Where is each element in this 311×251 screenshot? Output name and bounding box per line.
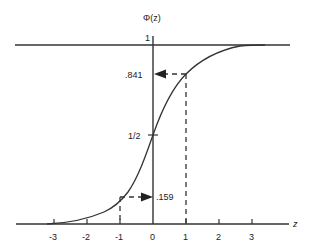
y-label-159: .159 [156,192,174,202]
arrow-841-icon [154,70,166,79]
x-tick-label: -3 [49,232,57,242]
x-tick-label: 3 [249,232,254,242]
y-label-one: 1 [145,33,150,43]
normal-cdf-diagram: Φ(z) 1 .841 1/2 .159 z -3 -2 -1 0 1 2 3 [0,0,311,251]
arrow-159-icon [141,193,153,202]
y-label-half: 1/2 [128,131,141,141]
x-axis-label: z [292,219,298,229]
x-tick-label: -1 [115,232,123,242]
x-tick-label: 1 [183,232,188,242]
x-tick-label: 0 [150,232,155,242]
y-axis-label: Φ(z) [143,13,161,23]
x-tick-label: 2 [216,232,221,242]
y-label-841: .841 [125,70,143,80]
x-tick-label: -2 [82,232,90,242]
